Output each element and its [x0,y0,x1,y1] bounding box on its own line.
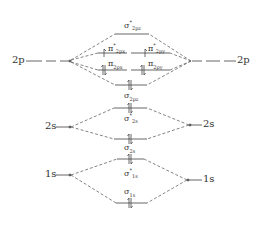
mo-label-pi-2py: π2py [148,60,162,70]
mo-label-pi-2px: π2px [108,60,122,70]
mo-label-sigma-star-2pz: σ*2pz [124,20,141,31]
mo-label-sigma-1s: σ1s [124,188,135,198]
mo-label-sigma-star-1s: σ*1s [124,168,138,179]
ao-2s-left [56,126,71,128]
mo-label-sigma-star-2s: σ*2s [124,113,138,124]
mo-label-pi-star-2py: π*2py [148,43,165,54]
ao-2p-left [26,60,71,62]
ao-label-2s-right: 2s [203,119,215,129]
electron-arrows [102,49,148,208]
ao-label-1s-right: 1s [203,174,215,184]
ao-1s-right [187,179,202,181]
mo-label-pi-star-2px: π*2px [108,43,125,54]
ao-label-1s-left: 1s [45,169,57,179]
ao-label-2p-right: 2p [237,55,250,65]
ao-label-2s-left: 2s [45,121,57,131]
ao-label-2p-left: 2p [12,55,25,65]
ao-2s-right [189,124,202,126]
mo-label-sigma-2pz: σ2pz [124,92,139,102]
ao-1s-left [56,174,71,176]
mo-label-sigma-2s: σ2s [124,144,135,154]
